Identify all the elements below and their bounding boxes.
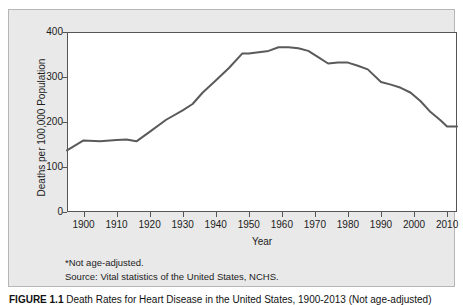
x-tick-mark <box>84 212 85 217</box>
x-tick-label: 2010 <box>427 219 463 230</box>
x-tick-mark <box>447 212 448 217</box>
y-tick-mark <box>62 167 67 168</box>
y-tick-mark <box>62 122 67 123</box>
x-tick-mark <box>216 212 217 217</box>
figure-caption-text: Death Rates for Heart Disease in the Uni… <box>66 294 431 305</box>
x-tick-mark <box>414 212 415 217</box>
footnotes-block: *Not age-adjusted. Source: Vital statist… <box>65 256 445 284</box>
footnote-age-adjusted: *Not age-adjusted. <box>65 256 445 270</box>
footnote-source: Source: Vital statistics of the United S… <box>65 270 445 284</box>
x-tick-mark <box>348 212 349 217</box>
x-tick-mark <box>381 212 382 217</box>
y-tick-mark <box>62 212 67 213</box>
x-tick-mark <box>117 212 118 217</box>
x-tick-mark <box>249 212 250 217</box>
chart-panel: 0100200300400 Deaths per 100,000 Populat… <box>8 9 455 287</box>
y-tick-mark <box>62 77 67 78</box>
x-tick-mark <box>315 212 316 217</box>
chart-line-svg <box>67 32 457 212</box>
figure-container: 0100200300400 Deaths per 100,000 Populat… <box>0 0 463 305</box>
x-axis-title: Year <box>67 236 457 247</box>
x-tick-mark <box>282 212 283 217</box>
series-line-heart-disease <box>67 47 457 150</box>
figure-caption-label: FIGURE 1.1 <box>9 294 63 305</box>
x-tick-mark <box>150 212 151 217</box>
x-tick-mark <box>183 212 184 217</box>
y-tick-mark <box>62 32 67 33</box>
figure-caption: FIGURE 1.1 Death Rates for Heart Disease… <box>9 294 459 305</box>
y-axis-title: Deaths per 100,000 Population <box>36 33 47 223</box>
